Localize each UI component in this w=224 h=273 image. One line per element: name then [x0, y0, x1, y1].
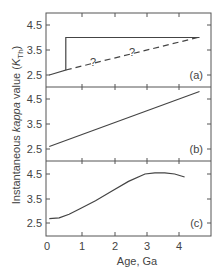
question-mark-2: ?: [129, 46, 135, 58]
y-axis-label: Instantaneous kappa value (KTh): [10, 46, 25, 205]
svg-text:4: 4: [176, 240, 182, 252]
svg-text:2.5: 2.5: [27, 217, 42, 229]
svg-text:2.5: 2.5: [27, 69, 42, 81]
svg-text:3.5: 3.5: [27, 193, 42, 205]
x-axis-label: Age, Ga: [117, 255, 158, 267]
panel-label-a: (a): [190, 69, 203, 81]
panel-label-c: (c): [190, 217, 203, 229]
y-tick-labels-b: 4.5 3.5 2.5: [27, 93, 42, 155]
svg-text:0: 0: [44, 240, 50, 252]
chart-figure: 4.5 3.5 2.5 4.5 3.5 2.5 4.5 3.5 2.5 0 1 …: [0, 0, 224, 273]
series-c-curve: [49, 173, 184, 219]
question-mark-1: ?: [90, 56, 96, 68]
svg-text:3.5: 3.5: [27, 118, 42, 130]
svg-text:3.5: 3.5: [27, 44, 42, 56]
svg-text:2.5: 2.5: [27, 143, 42, 155]
y-tick-labels-a: 4.5 3.5 2.5: [27, 19, 42, 81]
x-tick-labels: 0 1 2 3 4: [44, 240, 182, 252]
panel-label-b: (b): [190, 143, 203, 155]
svg-text:2: 2: [112, 240, 118, 252]
series-b-line: [49, 92, 199, 147]
svg-text:4.5: 4.5: [27, 168, 42, 180]
svg-text:4.5: 4.5: [27, 19, 42, 31]
svg-text:3: 3: [144, 240, 150, 252]
y-tick-labels-c: 4.5 3.5 2.5: [27, 168, 42, 229]
svg-text:1: 1: [79, 240, 85, 252]
svg-text:4.5: 4.5: [27, 93, 42, 105]
